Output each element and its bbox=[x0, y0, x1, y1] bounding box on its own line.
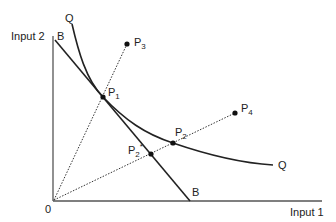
isoquant-diagram: Input 2 Input 1 0 Q Q B B P1 P2 P2* P3 P… bbox=[0, 0, 336, 222]
ray-to-p4 bbox=[54, 113, 235, 200]
point-p2star bbox=[148, 151, 153, 156]
isoquant-label-top: Q bbox=[65, 12, 74, 24]
isoquant-label-end: Q bbox=[278, 159, 287, 171]
p3-label: P3 bbox=[134, 36, 146, 51]
ray-to-p3 bbox=[54, 44, 127, 200]
budget-label-top: B bbox=[57, 30, 64, 42]
y-axis-label: Input 2 bbox=[11, 30, 45, 42]
point-p2 bbox=[170, 140, 175, 145]
p1-label: P1 bbox=[108, 86, 120, 101]
p2star-label: P2* bbox=[128, 142, 143, 159]
budget-line bbox=[55, 40, 190, 201]
origin-label: 0 bbox=[45, 203, 51, 215]
p4-label: P4 bbox=[241, 102, 253, 117]
point-p1 bbox=[100, 94, 105, 99]
point-p3 bbox=[124, 41, 129, 46]
point-p4 bbox=[232, 110, 237, 115]
budget-label-end: B bbox=[192, 186, 199, 198]
x-axis-label: Input 1 bbox=[290, 206, 324, 218]
